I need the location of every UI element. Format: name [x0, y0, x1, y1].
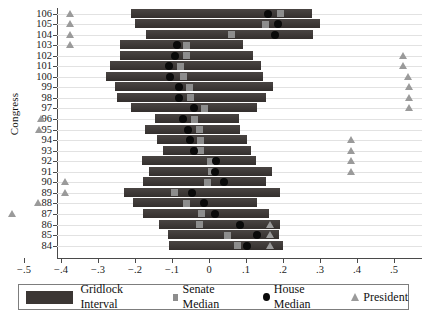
y-axis-tick-label: 102 — [26, 51, 52, 61]
senate-median-marker — [171, 189, 178, 196]
senate-median-marker — [224, 232, 231, 239]
legend-label-senate-median: Senate Median — [182, 282, 243, 312]
gridlock-interval-bar — [133, 198, 257, 207]
y-axis-tick-mark — [53, 98, 57, 99]
president-marker — [347, 147, 355, 154]
president-marker — [266, 231, 274, 238]
president-marker — [66, 10, 74, 17]
president-marker — [266, 242, 274, 249]
president-marker — [405, 104, 413, 111]
legend-label-house-median: House Median — [274, 282, 333, 312]
senate-median-marker — [198, 210, 205, 217]
y-axis-tick-label: 91 — [26, 167, 52, 177]
y-axis-tick-label: 85 — [26, 230, 52, 240]
senate-median-marker — [187, 94, 194, 101]
gridlock-interval-bar — [131, 9, 312, 18]
president-marker — [405, 94, 413, 101]
y-axis-tick-mark — [53, 108, 57, 109]
x-axis-tick-mark — [172, 258, 173, 263]
legend-item-house-median: House Median — [263, 282, 333, 312]
y-axis-title: Congress — [8, 74, 20, 154]
gridlock-interval-bar — [159, 220, 280, 229]
president-marker — [347, 157, 355, 164]
president-marker — [61, 189, 69, 196]
y-axis-tick-mark — [53, 45, 57, 46]
president-marker — [405, 83, 413, 90]
x-axis-tick-label: −.3 — [78, 264, 118, 275]
senate-median-marker — [201, 105, 208, 112]
x-axis-tick-label: −.2 — [115, 264, 155, 275]
president-marker — [66, 41, 74, 48]
y-axis-tick-mark — [53, 77, 57, 78]
senate-median-marker — [234, 242, 241, 249]
y-axis-tick-mark — [53, 225, 57, 226]
x-axis-tick-mark — [320, 258, 321, 263]
legend-item-president: President — [351, 290, 408, 305]
y-axis-tick-label: 94 — [26, 135, 52, 145]
house-median-marker — [243, 242, 251, 250]
gridlock-interval-bar — [110, 61, 261, 70]
senate-median-marker — [197, 137, 204, 144]
house-median-marker — [190, 147, 198, 155]
president-marker — [37, 115, 45, 122]
gridlock-interval-bar — [120, 40, 243, 49]
senate-median-marker — [183, 200, 190, 207]
y-axis-tick-mark — [53, 182, 57, 183]
y-axis-tick-mark — [53, 172, 57, 173]
x-axis-tick-label: .3 — [300, 264, 340, 275]
x-axis-tick-mark — [394, 258, 395, 263]
triangle-marker-icon — [351, 293, 359, 301]
president-marker — [266, 221, 274, 228]
y-axis-tick-label: 93 — [26, 146, 52, 156]
senate-median-marker — [196, 221, 203, 228]
y-axis-tick-label: 103 — [26, 40, 52, 50]
x-axis-tick-mark — [135, 258, 136, 263]
legend-item-senate-median: Senate Median — [173, 282, 244, 312]
gridlock-interval-bar — [135, 19, 320, 28]
president-marker — [35, 126, 43, 133]
senate-median-marker — [177, 63, 184, 70]
square-marker-icon — [173, 294, 179, 301]
x-axis-tick-label: 0 — [189, 264, 229, 275]
plot-area — [57, 8, 422, 256]
gridlock-interval-chart: Congress 1061051041031021011009998979695… — [0, 0, 425, 312]
senate-median-marker — [228, 31, 235, 38]
y-axis-tick-label: 106 — [26, 9, 52, 19]
house-median-marker — [264, 10, 272, 18]
president-marker — [404, 73, 412, 80]
y-axis-tick-mark — [53, 119, 57, 120]
y-axis-tick-mark — [53, 235, 57, 236]
senate-median-marker — [197, 147, 204, 154]
x-axis-tick-mark — [24, 258, 25, 263]
gridlock-interval-bar — [145, 125, 240, 134]
senate-median-marker — [196, 126, 203, 133]
y-axis-tick-mark — [53, 35, 57, 36]
y-axis-tick-mark — [53, 24, 57, 25]
y-axis-tick-label: 89 — [26, 188, 52, 198]
y-axis-tick-mark — [53, 130, 57, 131]
y-axis-tick-mark — [53, 246, 57, 247]
president-marker — [61, 178, 69, 185]
x-axis-tick-label: .2 — [263, 264, 303, 275]
y-axis-tick-label: 100 — [26, 72, 52, 82]
legend-item-gridlock-interval: Gridlock Interval — [26, 282, 151, 312]
gridlock-interval-bar — [143, 209, 269, 218]
y-axis-tick-mark — [53, 193, 57, 194]
y-axis-tick-label: 87 — [26, 209, 52, 219]
y-axis-tick-label: 99 — [26, 82, 52, 92]
house-median-marker — [274, 20, 282, 28]
y-axis-tick-mark — [53, 214, 57, 215]
y-axis-tick-label: 92 — [26, 156, 52, 166]
house-median-marker — [211, 210, 219, 218]
chart-legend: Gridlock Interval Senate Median House Me… — [18, 284, 409, 310]
y-axis-tick-label: 86 — [26, 220, 52, 230]
x-axis-tick-label: −.1 — [152, 264, 192, 275]
circle-marker-icon — [263, 293, 270, 301]
x-axis-line — [57, 258, 422, 259]
house-median-marker — [171, 52, 179, 60]
senate-median-marker — [204, 179, 211, 186]
x-axis-tick-label: −.5 — [4, 264, 44, 275]
x-axis-tick-mark — [61, 258, 62, 263]
senate-median-marker — [183, 42, 190, 49]
house-median-marker — [166, 73, 174, 81]
